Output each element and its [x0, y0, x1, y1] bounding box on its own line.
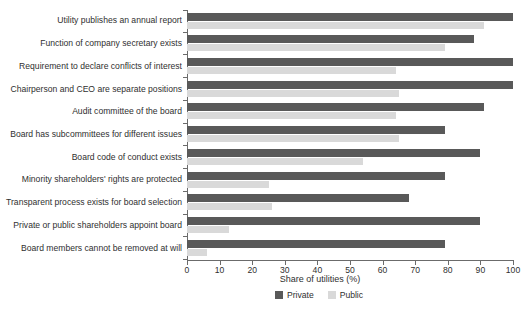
- category-label: Transparent process exists for board sel…: [0, 198, 182, 207]
- x-axis-title: Share of utilities (%): [0, 274, 530, 284]
- legend-label-private: Private: [287, 291, 314, 300]
- category-label: Minority shareholders' rights are protec…: [0, 175, 182, 184]
- chart-category-row: [187, 192, 513, 215]
- category-label: Private or public shareholders appoint b…: [0, 221, 182, 230]
- legend-item-private: Private: [275, 291, 314, 300]
- bar-private: [187, 149, 480, 157]
- bar-private: [187, 126, 445, 134]
- bar-private: [187, 103, 484, 111]
- bar-public: [187, 22, 484, 29]
- bar-private: [187, 194, 409, 202]
- chart-category-row: [187, 10, 513, 33]
- chart-category-row: [187, 55, 513, 78]
- bar-public: [187, 203, 272, 210]
- bar-public: [187, 44, 445, 51]
- legend-item-public: Public: [328, 291, 363, 300]
- chart-category-row: [187, 78, 513, 101]
- legend-swatch-public: [328, 291, 336, 299]
- chart-category-row: [187, 237, 513, 260]
- bar-public: [187, 226, 229, 233]
- bar-chart: 0102030405060708090100 Share of utilitie…: [0, 0, 530, 310]
- bar-private: [187, 13, 513, 21]
- bar-public: [187, 181, 269, 188]
- category-label: Requirement to declare conflicts of inte…: [0, 62, 182, 71]
- plot-area: [187, 10, 513, 260]
- category-label: Board code of conduct exists: [0, 153, 182, 162]
- chart-category-row: [187, 169, 513, 192]
- bar-private: [187, 240, 445, 248]
- bar-public: [187, 135, 399, 142]
- bar-public: [187, 112, 396, 119]
- category-label: Utility publishes an annual report: [0, 16, 182, 25]
- chart-category-row: [187, 146, 513, 169]
- legend-label-public: Public: [340, 291, 363, 300]
- category-label: Chairperson and CEO are separate positio…: [0, 85, 182, 94]
- bar-private: [187, 217, 480, 225]
- bar-public: [187, 158, 363, 165]
- y-axis-tick: [183, 259, 187, 260]
- bar-public: [187, 67, 396, 74]
- bar-private: [187, 35, 474, 43]
- bar-public: [187, 90, 399, 97]
- chart-legend: Private Public: [0, 291, 530, 300]
- category-label: Function of company secretary exists: [0, 39, 182, 48]
- bar-private: [187, 58, 513, 66]
- legend-swatch-private: [275, 291, 283, 299]
- y-axis-tick: [183, 10, 187, 11]
- bar-private: [187, 81, 513, 89]
- chart-category-row: [187, 124, 513, 147]
- bar-public: [187, 249, 207, 256]
- category-label: Board members cannot be removed at will: [0, 244, 182, 253]
- chart-category-row: [187, 33, 513, 56]
- category-label: Board has subcommittees for different is…: [0, 130, 182, 139]
- category-label: Audit committee of the board: [0, 107, 182, 116]
- chart-category-row: [187, 215, 513, 238]
- bar-private: [187, 172, 445, 180]
- chart-category-row: [187, 101, 513, 124]
